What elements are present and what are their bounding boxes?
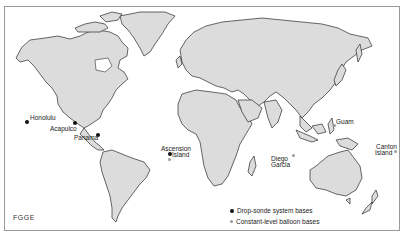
legend-item-balloon: Constant-level balloon bases xyxy=(230,216,319,227)
station-label-diego-garcia-2: Garcia xyxy=(271,161,290,168)
station-label-acapulco: Acapulco xyxy=(50,125,77,132)
station-label-honolulu: Honolulu xyxy=(30,114,56,121)
station-balloon-ascension xyxy=(168,158,171,161)
black-dot-icon xyxy=(230,209,234,213)
gray-dot-icon xyxy=(230,220,233,223)
map-legend: Drop-sonde system bases Constant-level b… xyxy=(230,205,319,227)
new-guinea xyxy=(336,138,358,150)
legend-label: Constant-level balloon bases xyxy=(236,218,319,225)
australia xyxy=(310,150,362,196)
station-label-canton-2: Island xyxy=(375,149,392,156)
indonesia xyxy=(296,130,318,142)
legend-item-dropsonde: Drop-sonde system bases xyxy=(230,205,319,216)
station-balloon-diego-garcia xyxy=(292,154,295,157)
station-label-ascension-2: Island xyxy=(172,151,189,158)
station-label-panama: Panama xyxy=(74,134,98,141)
india xyxy=(264,100,282,128)
station-balloon-canton xyxy=(394,150,397,153)
station-dot-honolulu xyxy=(25,120,29,124)
arctic-islands xyxy=(75,22,108,32)
fgge-tag: FGGE xyxy=(13,214,35,221)
legend-label: Drop-sonde system bases xyxy=(237,207,313,214)
madagascar xyxy=(248,156,256,176)
new-zealand xyxy=(372,190,378,204)
station-label-guam: Guam xyxy=(336,118,354,125)
south-america xyxy=(100,150,150,222)
greenland xyxy=(120,12,175,56)
